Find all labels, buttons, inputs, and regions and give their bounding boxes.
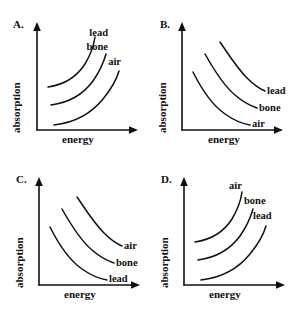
x-axis-arrowhead	[274, 126, 283, 134]
x-axis-arrowhead	[131, 281, 140, 289]
curve-bone	[198, 209, 253, 260]
panel-d-y-axis-label: absorption	[159, 237, 170, 288]
y-axis-arrowhead	[180, 177, 188, 186]
panel-d-label-air: air	[229, 181, 242, 192]
x-axis-arrowhead	[129, 126, 138, 134]
curve-air	[77, 197, 122, 246]
panel-a-letter: A.	[13, 19, 24, 30]
panel-a-x-axis-label: energy	[62, 134, 94, 145]
curve-lead	[220, 42, 265, 91]
panel-b-x-axis-label: energy	[208, 134, 240, 145]
curve-lead	[201, 226, 266, 280]
panel-c-y-axis-label: absorption	[14, 237, 25, 288]
curve-air	[54, 71, 119, 125]
panel-b-label-bone: bone	[259, 103, 281, 114]
curve-air	[195, 192, 242, 242]
panel-a-y-axis-label: absorption	[11, 82, 22, 133]
panel-c: C. absorption energy air bone lead	[0, 155, 148, 310]
panel-c-label-air: air	[124, 241, 137, 252]
absorption-vs-energy-figure: A. absorption energy lead bone air B. ab…	[0, 0, 297, 310]
panel-c-x-axis-label: energy	[64, 289, 96, 300]
panel-b-label-lead: lead	[267, 86, 286, 97]
panel-d-label-bone: bone	[244, 196, 266, 207]
panel-b-y-axis-label: absorption	[157, 82, 168, 133]
panel-a-label-air: air	[62, 57, 121, 68]
panel-b-letter: B.	[160, 19, 170, 30]
panel-d: D. absorption energy air bone lead	[149, 155, 297, 310]
panel-d-label-lead: lead	[253, 211, 272, 222]
panel-a-label-bone: bone	[62, 42, 108, 53]
y-axis-arrowhead	[178, 22, 186, 31]
panel-c-letter: C.	[16, 174, 27, 185]
panel-d-x-axis-label: energy	[209, 289, 241, 300]
panel-d-letter: D.	[161, 174, 172, 185]
panel-a-label-lead: lead	[62, 28, 108, 39]
x-axis-arrowhead	[276, 281, 285, 289]
panel-a: A. absorption energy lead bone air	[0, 0, 148, 155]
panel-c-label-bone: bone	[116, 258, 138, 269]
panel-c-label-lead: lead	[109, 274, 128, 285]
panel-b-label-air: air	[252, 119, 265, 130]
y-axis-arrowhead	[35, 177, 43, 186]
panel-b: B. absorption energy lead bone air	[149, 0, 297, 155]
y-axis-arrowhead	[33, 22, 41, 31]
panel-b-plot	[149, 0, 297, 155]
